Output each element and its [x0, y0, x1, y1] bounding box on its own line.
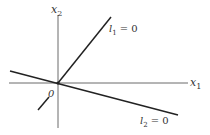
x1-axis-label: x1 — [190, 76, 201, 91]
l2-line — [10, 71, 178, 115]
x2-axis-label: x2 — [51, 3, 62, 18]
diagram-canvas: x2 x1 0 l1= 0 l2= 0 — [0, 0, 210, 135]
origin-point — [56, 81, 59, 84]
l1-line — [58, 17, 111, 83]
l2-label: l2= 0 — [140, 115, 169, 129]
origin-label: 0 — [48, 88, 55, 99]
l1-label: l1= 0 — [109, 23, 138, 37]
